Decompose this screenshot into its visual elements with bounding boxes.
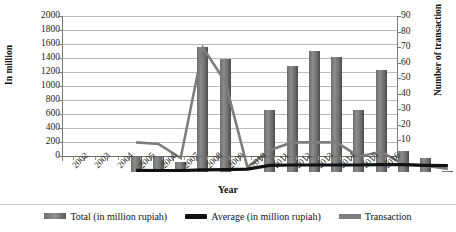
y-tick-label-primary: 0 (20, 151, 60, 160)
plot-area (62, 16, 398, 156)
tickmark (58, 44, 62, 45)
legend-label-transaction: Transaction (365, 211, 412, 222)
legend-line-swatch-black-icon (185, 214, 207, 219)
chart-legend: Total (in million rupiah) Average (in mi… (0, 204, 456, 224)
tickmark (397, 32, 401, 33)
x-axis-tick-labels: 2002200320042005200620072008200920102011… (62, 160, 396, 186)
y-tick-label-secondary: 90 (401, 11, 435, 20)
tickmark (58, 58, 62, 59)
legend-item-transaction[interactable]: Transaction (339, 211, 412, 222)
line-transaction (136, 48, 448, 169)
gridline (63, 16, 397, 17)
legend-item-total[interactable]: Total (in million rupiah) (44, 211, 167, 222)
tickmark (58, 100, 62, 101)
legend-item-average[interactable]: Average (in million rupiah) (185, 211, 321, 222)
tickmark (58, 86, 62, 87)
legend-line-swatch-gray-icon (339, 214, 361, 219)
y-tick-label-primary: 600 (20, 109, 60, 118)
y-tick-label-primary: 800 (20, 95, 60, 104)
legend-bar-swatch-icon (44, 213, 66, 219)
tickmark (397, 63, 401, 64)
gridline (63, 30, 397, 31)
chart-container: In million Number of transaction Year 20… (0, 0, 456, 232)
legend-label-average: Average (in million rupiah) (211, 211, 321, 222)
y-tick-label-primary: 1400 (20, 53, 60, 62)
y-axis-label-primary: In million (4, 34, 14, 96)
tickmark (397, 16, 401, 17)
y-tick-label-primary: 1600 (20, 39, 60, 48)
tickmark (397, 140, 401, 141)
y-tick-label-primary: 1800 (20, 25, 60, 34)
tickmark (397, 109, 401, 110)
y-tick-label-primary: 200 (20, 137, 60, 146)
tickmark (397, 47, 401, 48)
y-tick-label-primary: 400 (20, 123, 60, 132)
tickmark (397, 94, 401, 95)
tickmark (58, 142, 62, 143)
line-series-overlay (125, 32, 456, 172)
tickmark (58, 114, 62, 115)
tickmark (397, 78, 401, 79)
legend-label-total: Total (in million rupiah) (70, 211, 167, 222)
y-tick-label-primary: 1000 (20, 81, 60, 90)
tickmark (58, 128, 62, 129)
tickmark (397, 125, 401, 126)
tickmark (58, 30, 62, 31)
tickmark (58, 16, 62, 17)
y-tick-label-primary: 2000 (20, 11, 60, 20)
tickmark (58, 72, 62, 73)
y-tick-label-primary: 1200 (20, 67, 60, 76)
